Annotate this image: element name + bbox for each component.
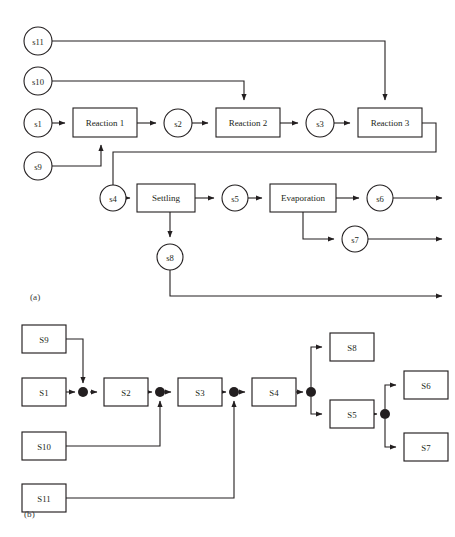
stream-label-s9: s9 <box>34 162 42 172</box>
junction-dot-j4 <box>306 387 316 397</box>
stream-box-node-S8[interactable]: S8 <box>330 333 374 361</box>
junction-dot-j5 <box>380 409 390 419</box>
edge-j5-to-s6 <box>385 385 396 409</box>
stream-node-s5[interactable]: s5 <box>222 185 248 211</box>
stream-box-label-S8: S8 <box>347 343 357 353</box>
stream-node-s9[interactable]: s9 <box>24 152 52 180</box>
stream-node-s3[interactable]: s3 <box>306 109 334 137</box>
stream-box-label-S10: S10 <box>37 442 51 452</box>
stream-box-label-S6: S6 <box>421 381 431 391</box>
stream-box-node-S2[interactable]: S2 <box>104 378 148 406</box>
connector-s9-to-reaction1 <box>52 145 101 166</box>
edge-j5-to-s7 <box>385 419 396 447</box>
edge-s9-to-j1 <box>66 339 83 383</box>
stream-box-label-S9: S9 <box>39 335 49 345</box>
stream-label-s1: s1 <box>34 119 42 129</box>
stream-box-label-S7: S7 <box>421 443 431 453</box>
edge-j4-to-s8 <box>311 347 322 387</box>
figure-root: s11 s10 s1 s9 s2 <box>0 0 455 537</box>
stream-label-s7: s7 <box>351 235 359 245</box>
stream-label-s5: s5 <box>231 194 239 204</box>
panel-a-caption: (a) <box>30 292 40 302</box>
stream-box-node-S4[interactable]: S4 <box>252 378 296 406</box>
unit-label-reaction2: Reaction 2 <box>229 118 268 128</box>
stream-box-label-S4: S4 <box>269 388 279 398</box>
stream-box-node-S1[interactable]: S1 <box>22 378 66 406</box>
stream-box-label-S2: S2 <box>121 388 130 398</box>
stream-box-node-S11[interactable]: S11 <box>22 484 66 512</box>
panel-a-connections <box>52 41 442 296</box>
stream-box-node-S10[interactable]: S10 <box>22 432 66 460</box>
junction-dot-j2 <box>155 387 165 397</box>
process-flow-figure: s11 s10 s1 s9 s2 <box>0 0 455 537</box>
junction-dot-j3 <box>229 387 239 397</box>
unit-node-evaporation[interactable]: Evaporation <box>270 184 336 212</box>
connector-evaporation-to-s7 <box>303 212 334 239</box>
unit-label-reaction3: Reaction 3 <box>371 118 410 128</box>
stream-label-s2: s2 <box>174 119 182 129</box>
stream-box-label-S5: S5 <box>347 410 357 420</box>
stream-node-s8[interactable]: s8 <box>157 244 183 270</box>
unit-node-settling[interactable]: Settling <box>137 184 195 212</box>
stream-label-s3: s3 <box>316 119 324 129</box>
stream-box-node-S3[interactable]: S3 <box>178 378 222 406</box>
connector-s11-to-reaction3 <box>52 41 385 100</box>
stream-box-node-S6[interactable]: S6 <box>404 371 448 399</box>
unit-label-settling: Settling <box>152 193 181 203</box>
stream-label-s8: s8 <box>166 253 174 263</box>
stream-label-s6: s6 <box>376 194 384 204</box>
unit-node-reaction3[interactable]: Reaction 3 <box>358 108 422 137</box>
stream-box-label-S3: S3 <box>195 388 205 398</box>
unit-label-evaporation: Evaporation <box>281 193 325 203</box>
stream-node-s10[interactable]: s10 <box>24 67 52 95</box>
connector-s8-to-outlet <box>170 270 442 296</box>
edge-j4-to-s5 <box>311 397 322 414</box>
panel-a-stream-nodes: s11 s10 s1 s9 s2 <box>24 27 393 270</box>
unit-label-reaction1: Reaction 1 <box>86 118 125 128</box>
stream-node-s4[interactable]: s4 <box>100 185 126 211</box>
unit-node-reaction1[interactable]: Reaction 1 <box>73 108 137 137</box>
stream-node-s1[interactable]: s1 <box>24 109 52 137</box>
stream-label-s4: s4 <box>109 194 117 204</box>
stream-label-s11: s11 <box>32 37 44 47</box>
unit-node-reaction2[interactable]: Reaction 2 <box>216 108 280 137</box>
panel-b-caption: (b) <box>24 509 35 519</box>
stream-node-s2[interactable]: s2 <box>164 109 192 137</box>
edge-s11-to-j3 <box>66 401 234 498</box>
junction-dot-j1 <box>78 387 88 397</box>
stream-node-s6[interactable]: s6 <box>367 185 393 211</box>
panel-a: s11 s10 s1 s9 s2 <box>24 27 442 302</box>
stream-box-label-S1: S1 <box>39 388 48 398</box>
panel-b: S9 S1 S2 S3 S4 <box>22 325 448 519</box>
connector-s10-to-reaction2 <box>52 81 244 100</box>
stream-node-s7[interactable]: s7 <box>342 226 368 252</box>
stream-node-s11[interactable]: s11 <box>24 27 52 55</box>
stream-box-node-S5[interactable]: S5 <box>330 400 374 428</box>
stream-box-label-S11: S11 <box>37 494 50 504</box>
stream-box-node-S9[interactable]: S9 <box>22 325 66 353</box>
edge-s10-to-j2 <box>66 401 160 446</box>
stream-label-s10: s10 <box>32 77 44 87</box>
stream-box-node-S7[interactable]: S7 <box>404 433 448 461</box>
